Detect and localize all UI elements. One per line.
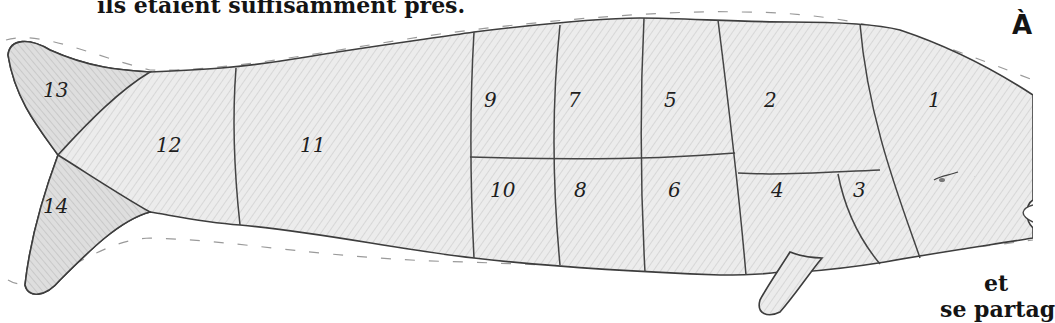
- section-9-label: 9: [484, 88, 497, 112]
- section-5-label: 5: [664, 88, 677, 112]
- section-8-label: 8: [574, 178, 587, 202]
- section-14-label: 14: [43, 194, 68, 218]
- section-12-label: 12: [156, 133, 181, 157]
- section-1-label: 1: [928, 88, 941, 112]
- section-3-label: 3: [853, 178, 866, 202]
- whale-body: [8, 18, 1033, 308]
- section-13-label: 13: [43, 78, 68, 102]
- section-2-label: 2: [763, 88, 777, 112]
- section-6-label: 6: [668, 178, 681, 202]
- section-10-label: 10: [490, 178, 516, 202]
- section-11-label: 11: [300, 133, 325, 157]
- section-4-label: 4: [770, 178, 784, 202]
- section-7-label: 7: [568, 88, 581, 112]
